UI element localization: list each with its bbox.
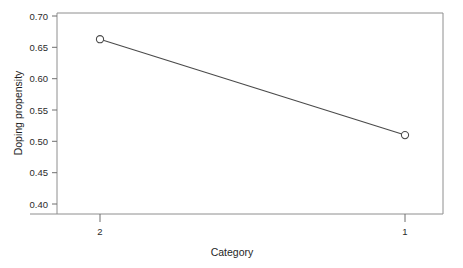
x-axis-title: Category <box>211 246 254 258</box>
y-tick-label-6: 0.40 <box>30 199 49 210</box>
y-tick-label-0: 0.70 <box>30 11 49 22</box>
chart-canvas: 0.70 0.65 0.60 0.55 0.50 0.45 0.40 2 1 C… <box>0 0 463 268</box>
data-point-marker <box>401 132 408 139</box>
x-tick-label-right: 1 <box>402 226 407 237</box>
chart-background <box>0 0 463 268</box>
y-tick-label-4: 0.50 <box>30 136 49 147</box>
y-tick-label-5: 0.45 <box>30 167 49 178</box>
y-tick-label-1: 0.65 <box>30 42 49 53</box>
y-tick-label-2: 0.60 <box>30 73 49 84</box>
x-tick-label-left: 2 <box>97 226 102 237</box>
y-tick-label-3: 0.55 <box>30 105 49 116</box>
line-chart: 0.70 0.65 0.60 0.55 0.50 0.45 0.40 2 1 C… <box>0 0 463 268</box>
data-point-marker <box>96 36 103 43</box>
y-axis-title: Doping propensity <box>12 70 24 155</box>
